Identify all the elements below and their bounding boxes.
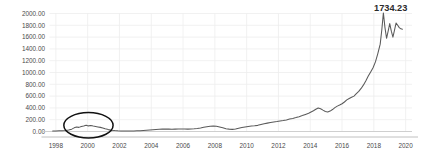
- y-axis-tick-label: 1200.00: [22, 57, 46, 64]
- y-axis-tick-label: 2000.00: [22, 10, 46, 17]
- x-axis-tick-label: 2010: [240, 142, 255, 149]
- y-axis-tick-label: 1600.00: [22, 33, 46, 40]
- x-axis-tick-label: 2002: [112, 142, 127, 149]
- y-axis-tick-label: 400.00: [25, 104, 45, 111]
- y-axis-tick-label: 200.00: [25, 116, 45, 123]
- x-axis-tick-label: 2000: [81, 142, 96, 149]
- last-value-label: 1734.23: [374, 3, 407, 13]
- y-axis-tick-labels: 0.00200.00400.00600.00800.001000.001200.…: [22, 10, 46, 135]
- x-axis-tick-label: 2004: [144, 142, 159, 149]
- x-axis-tick-label: 2008: [208, 142, 223, 149]
- y-axis-tick-label: 1400.00: [22, 45, 46, 52]
- x-axis-tick-label: 2020: [399, 142, 414, 149]
- x-axis-tick-label: 2016: [335, 142, 350, 149]
- y-axis-tick-label: 1000.00: [22, 69, 46, 76]
- chart-canvas: 0.00200.00400.00600.00800.001000.001200.…: [0, 0, 430, 163]
- x-axis-tick-label: 2012: [271, 142, 286, 149]
- y-axis-tick-label: 1800.00: [22, 22, 46, 29]
- y-axis-tick-label: 800.00: [25, 81, 45, 88]
- x-axis-tick-label: 1998: [49, 142, 64, 149]
- line-chart: 0.00200.00400.00600.00800.001000.001200.…: [0, 0, 430, 163]
- y-axis-tick-label: 600.00: [25, 92, 45, 99]
- x-axis-tick-label: 2006: [176, 142, 191, 149]
- x-axis-tick-label: 2018: [367, 142, 382, 149]
- x-axis-tick-label: 2014: [303, 142, 318, 149]
